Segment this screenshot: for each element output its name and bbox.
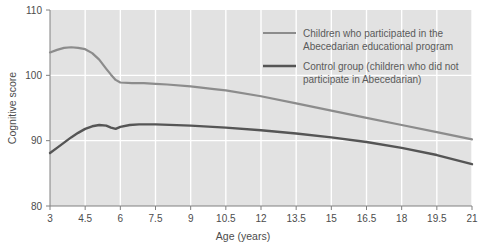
x-tick-label: 15: [326, 213, 338, 224]
legend-label-control-line2: participate in Abecedarian): [303, 74, 421, 85]
y-tick-label: 90: [31, 135, 43, 146]
cognitive-score-line-chart: 8090100110 34.567.5910.51213.51516.51819…: [0, 0, 481, 251]
y-axis-title: Cognitive score: [6, 72, 18, 145]
y-tick-label: 110: [26, 5, 42, 16]
x-axis-title: Age (years): [216, 230, 270, 242]
legend-label-control-line1: Control group (children who did not: [303, 61, 459, 72]
x-tick-label: 4.5: [78, 213, 92, 224]
x-tick-label: 18: [396, 213, 408, 224]
x-tick-label: 13.5: [286, 213, 306, 224]
legend-label-treatment-line1: Children who participated in the: [303, 28, 444, 39]
x-tick-label: 9: [188, 213, 194, 224]
chart-container: 8090100110 34.567.5910.51213.51516.51819…: [0, 0, 481, 251]
x-tick-label: 19.5: [427, 213, 447, 224]
y-tick-label: 80: [31, 201, 43, 212]
x-tick-label: 10.5: [216, 213, 236, 224]
x-tick-label: 6: [118, 213, 124, 224]
legend-label-treatment-line2: Abecedarian educational program: [303, 41, 453, 52]
x-tick-label: 3: [47, 213, 53, 224]
x-tick-label: 12: [255, 213, 267, 224]
y-tick-label: 100: [25, 70, 42, 81]
x-tick-label: 21: [466, 213, 478, 224]
x-tick-label: 7.5: [149, 213, 163, 224]
x-tick-label: 16.5: [357, 213, 377, 224]
